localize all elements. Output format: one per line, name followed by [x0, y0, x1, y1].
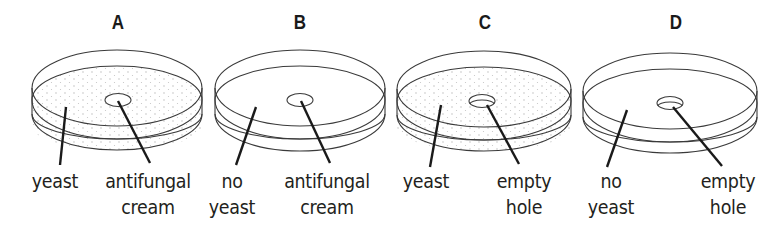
label-line: empty: [695, 168, 761, 194]
label-line: antifungal: [97, 168, 198, 194]
dish-b: [215, 50, 385, 165]
label-d-no-yeast: no yeast: [583, 168, 638, 220]
label-line: hole: [695, 194, 761, 220]
pointer-no-yeast-b: [236, 107, 256, 165]
cream-hole-a: [105, 94, 131, 107]
label-line: antifungal: [276, 168, 377, 194]
label-b-antifungal-cream: antifungal cream: [276, 168, 377, 220]
heading-a: A: [101, 11, 135, 34]
label-line: no: [583, 168, 638, 194]
label-a-yeast: yeast: [27, 168, 82, 194]
label-line: empty: [491, 168, 557, 194]
label-line: cream: [276, 194, 377, 220]
dish-c: [397, 51, 571, 167]
label-c-empty-hole: empty hole: [491, 168, 557, 220]
heading-b: B: [283, 11, 317, 34]
petri-dish-diagram: A B C D yeast antifungal cream no yeast …: [0, 0, 783, 239]
label-d-empty-hole: empty hole: [695, 168, 761, 220]
label-line: hole: [491, 194, 557, 220]
label-line: yeast: [204, 194, 259, 220]
label-line: yeast: [27, 168, 82, 194]
label-line: cream: [97, 194, 198, 220]
label-c-yeast: yeast: [398, 168, 453, 194]
heading-d: D: [659, 11, 693, 34]
pointer-cream-b: [301, 101, 330, 163]
label-line: no: [204, 168, 259, 194]
cream-hole-b: [287, 94, 313, 107]
label-a-antifungal-cream: antifungal cream: [97, 168, 198, 220]
label-b-no-yeast: no yeast: [204, 168, 259, 220]
dish-a: [32, 50, 202, 165]
label-line: yeast: [583, 194, 638, 220]
label-line: yeast: [398, 168, 453, 194]
heading-c: C: [468, 11, 502, 34]
dish-d: [583, 53, 757, 167]
